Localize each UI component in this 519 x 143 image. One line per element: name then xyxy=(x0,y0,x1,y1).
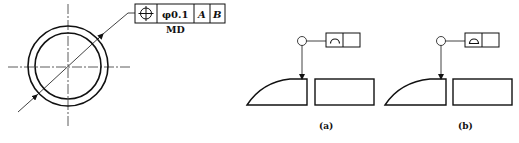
left-figure: φ0.1 A B MD xyxy=(8,4,225,128)
caption-b: (b) xyxy=(458,121,473,131)
leader-line xyxy=(37,34,103,95)
feature-control-frame: φ0.1 A B xyxy=(135,4,225,23)
profile-of-line-icon xyxy=(331,39,340,44)
curved-profile-part xyxy=(385,79,446,105)
leader-to-frame xyxy=(103,13,128,34)
modifier-label: MD xyxy=(166,24,185,35)
frame-b xyxy=(465,33,499,47)
gdt-diagram: φ0.1 A B MD (a) (b) xyxy=(0,0,519,143)
rectangular-part xyxy=(315,79,374,105)
leader-line-lower xyxy=(18,95,37,112)
figure-a: (a) xyxy=(247,33,374,131)
rectangular-part xyxy=(453,79,512,105)
datum-a: A xyxy=(197,9,206,20)
curved-profile-part xyxy=(247,79,307,105)
all-around-circle xyxy=(298,37,307,46)
all-around-circle xyxy=(437,37,446,46)
caption-a: (a) xyxy=(319,121,333,131)
frame-a xyxy=(326,33,360,47)
position-icon xyxy=(139,6,154,21)
leader-arrow-upper xyxy=(98,34,103,39)
tolerance-value: φ0.1 xyxy=(162,9,188,20)
figure-b: (b) xyxy=(385,33,512,131)
profile-of-surface-icon xyxy=(470,39,479,44)
datum-b: B xyxy=(212,9,221,20)
